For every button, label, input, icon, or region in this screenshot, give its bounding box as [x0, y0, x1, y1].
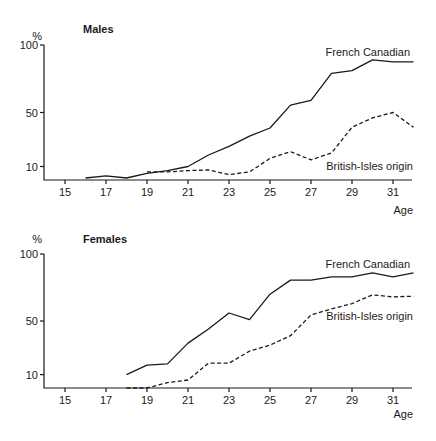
panel-title: Males: [83, 23, 114, 35]
females-panel: % Females 1050100151719212325272931 Fren…: [20, 233, 414, 420]
chart-canvas: % Males 1050100151719212325272931 French…: [0, 0, 436, 441]
x-tick-label: 15: [59, 394, 71, 406]
french-canadian-line: [127, 273, 414, 375]
x-tick-label: 15: [59, 186, 71, 198]
x-tick-label: 19: [141, 186, 153, 198]
y-tick-label: 10: [26, 369, 38, 381]
x-tick-label: 31: [387, 186, 399, 198]
males-panel: % Males 1050100151719212325272931 French…: [20, 23, 414, 216]
x-tick-label: 17: [100, 186, 112, 198]
x-tick-label: 17: [100, 394, 112, 406]
x-tick-label: 19: [141, 394, 153, 406]
x-tick-label: 23: [223, 394, 235, 406]
x-tick-label: 21: [182, 186, 194, 198]
y-tick-label: 10: [26, 161, 38, 173]
british-isles-line: [127, 295, 414, 388]
x-tick-label: 31: [387, 394, 399, 406]
axes: 1050100151719212325272931: [20, 39, 412, 198]
british-isles-label: British-Isles origin: [326, 160, 413, 172]
axes: 1050100151719212325272931: [20, 248, 412, 406]
y-unit-label: %: [32, 233, 42, 245]
y-tick-label: 100: [20, 248, 38, 260]
y-tick-label: 50: [26, 315, 38, 327]
x-tick-label: 29: [346, 186, 358, 198]
x-tick-label: 27: [305, 186, 317, 198]
y-tick-label: 100: [20, 39, 38, 51]
french-canadian-label: French Canadian: [326, 258, 410, 270]
x-tick-label: 23: [223, 186, 235, 198]
x-tick-label: 27: [305, 394, 317, 406]
x-axis-label: Age: [393, 408, 413, 420]
chart-figure: % Males 1050100151719212325272931 French…: [0, 0, 436, 441]
x-tick-label: 25: [264, 186, 276, 198]
french-canadian-label: French Canadian: [326, 46, 410, 58]
x-tick-label: 29: [346, 394, 358, 406]
british-isles-label: British-Isles origin: [326, 310, 413, 322]
data-lines: [127, 273, 414, 388]
x-tick-label: 25: [264, 394, 276, 406]
x-axis-label: Age: [393, 204, 413, 216]
y-tick-label: 50: [26, 107, 38, 119]
x-tick-label: 21: [182, 394, 194, 406]
panel-title: Females: [83, 233, 127, 245]
